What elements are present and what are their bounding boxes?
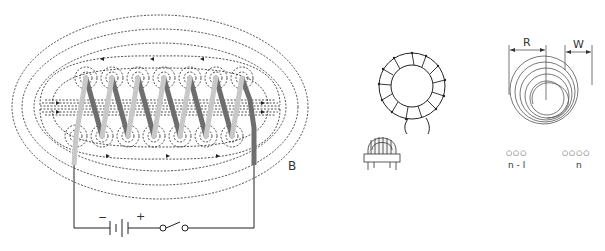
switch-contact <box>182 225 188 231</box>
toroid-inner <box>391 65 433 107</box>
toroid-lead <box>426 118 429 134</box>
radius-label: R <box>523 36 531 49</box>
switch-lever <box>166 222 180 228</box>
toroid-lead <box>405 119 408 134</box>
circuit <box>74 165 254 237</box>
battery-minus-label: − <box>98 211 107 224</box>
diagram-canvas: B − + <box>0 0 605 251</box>
switch-contact <box>160 225 166 231</box>
field-label-b: B <box>288 159 296 173</box>
spiral-turn <box>532 83 568 118</box>
choke-component <box>364 137 400 170</box>
toroid-winding-dots <box>378 52 446 120</box>
battery-plus-label: + <box>136 210 145 223</box>
toroid-figure <box>378 52 446 134</box>
left-turn-label: n - l <box>508 160 525 170</box>
left-turn-dots: ○○○ <box>506 149 527 157</box>
spiral-coil-figure <box>509 45 592 124</box>
width-label: W <box>573 38 584 51</box>
right-turn-label: n <box>576 160 582 170</box>
right-turn-dots: ○○○○ <box>562 149 590 157</box>
